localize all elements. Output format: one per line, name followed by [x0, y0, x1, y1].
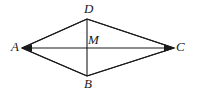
geometry-figure: D A C B M [0, 0, 197, 93]
vertex-label-C: C [176, 40, 185, 53]
side-BA [22, 48, 87, 76]
side-AD [22, 19, 87, 48]
vertex-label-D: D [84, 2, 93, 15]
side-DC [87, 19, 174, 48]
intersection-label-M: M [88, 33, 99, 46]
vertex-label-B: B [84, 77, 92, 90]
vertex-label-A: A [11, 40, 19, 53]
side-CB [87, 48, 174, 76]
arrowhead-toward-C [164, 44, 175, 52]
